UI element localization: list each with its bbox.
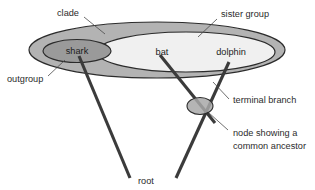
sister-group-ellipse: [97, 32, 275, 72]
label-terminal-branch: terminal branch: [233, 95, 296, 105]
phylogenetic-tree-diagram: shark bat dolphin clade sister group out…: [0, 0, 315, 190]
label-node-line1: node showing a: [233, 128, 298, 138]
taxon-label-bat: bat: [156, 47, 169, 57]
label-clade: clade: [57, 8, 79, 18]
phylogenetic-tree-figure: shark bat dolphin clade sister group out…: [0, 0, 315, 190]
label-outgroup: outgroup: [7, 74, 43, 84]
taxon-label-dolphin: dolphin: [216, 47, 246, 57]
label-node-line2: common ancestor: [233, 141, 306, 151]
label-root: root: [138, 176, 154, 186]
branch-dolphin-terminal: [176, 62, 229, 178]
node-ellipse: [187, 98, 213, 115]
taxon-label-shark: shark: [66, 46, 89, 56]
label-sister-group: sister group: [221, 9, 269, 19]
common-ancestor-node: [187, 98, 213, 115]
